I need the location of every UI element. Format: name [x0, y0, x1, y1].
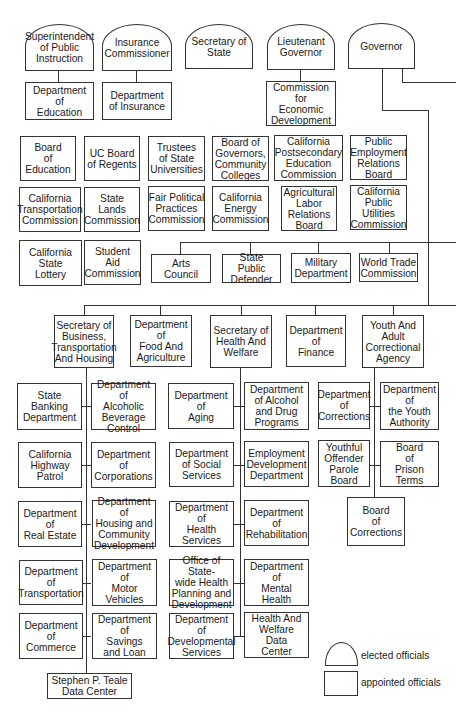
- connector: [180, 242, 181, 254]
- connector: [300, 70, 301, 81]
- dept-transportation: Department of Transportation: [19, 560, 83, 605]
- governor-connector: [402, 69, 403, 82]
- dept-rehabilitation: Department of Rehabilitation: [244, 500, 309, 546]
- agricultural-labor-relations-board: Agricultural Labor Relations Board: [281, 186, 337, 231]
- dept-alcohol-drug-programs: Department of Alcohol and Drug Programs: [244, 382, 309, 430]
- youthful-offender-parole-board: Youthful Offender Parole Board: [318, 440, 370, 487]
- dept-mental-health: Department of Mental Health: [244, 559, 309, 606]
- public-employment-relations-board: Public Employment Relations Board: [350, 135, 407, 180]
- dept-health-services: Department of Health Services: [169, 501, 234, 547]
- dept-savings-and-loan: Department of Savings and Loan: [92, 613, 157, 659]
- board-prison-terms: Board of Prison Terms: [380, 441, 439, 487]
- world-trade-commission: World Trade Commission: [359, 253, 418, 282]
- board-education: Board of Education: [20, 136, 76, 181]
- dept-insurance: Department of Insurance: [102, 82, 172, 120]
- california-state-lottery: California State Lottery: [19, 240, 82, 286]
- california-energy-commission: California Energy Commission: [212, 186, 269, 231]
- governor-trunk: [382, 69, 383, 110]
- trustees-state-universities: Trustees of State Universities: [148, 136, 205, 181]
- board-governors-community-colleges: Board of Governors, Community Colleges: [212, 136, 269, 181]
- governor-connector: [402, 82, 456, 83]
- elected-lieutenant-governor: Lieutenant Governor: [267, 24, 335, 70]
- board-corrections: Board of Corrections: [347, 497, 405, 546]
- legend-elected-icon: [325, 642, 358, 666]
- connector: [393, 305, 394, 315]
- connector: [315, 305, 316, 315]
- connector: [81, 524, 91, 525]
- legend-elected-label: elected officials: [361, 650, 429, 661]
- connector: [84, 305, 85, 315]
- business-spine: [86, 368, 87, 677]
- dept-food-agriculture: Department of Food And Agriculture: [130, 315, 192, 367]
- health-spine: [240, 368, 241, 637]
- dept-motor-vehicles: Department of Motor Vehicles: [92, 559, 157, 606]
- health-welfare-data-center: Health And Welfare Data Center: [244, 612, 309, 658]
- connector: [81, 406, 91, 407]
- military-department: Military Department: [291, 253, 351, 283]
- agencies-branch: [84, 305, 456, 306]
- agency-business-transportation-housing: Secretary of Business, Transportation An…: [54, 315, 114, 368]
- elected-insurance-commissioner: Insurance Commissioner: [102, 24, 172, 71]
- dept-youth-authority: Department of the Youth Authority: [380, 382, 439, 430]
- office-statewide-health-planning: Office of State- wide Health Planning an…: [169, 559, 234, 606]
- connector: [369, 406, 380, 407]
- state-public-defender: State Public Defender: [222, 254, 281, 283]
- dept-corrections: Department of Corrections: [318, 382, 370, 429]
- state-lands-commission: State Lands Commission: [84, 187, 140, 232]
- uc-board-of-regents: UC Board of Regents: [84, 136, 140, 181]
- governor-trunk: [382, 110, 429, 111]
- elected-secretary-of-state: Secretary of State: [185, 24, 253, 69]
- connector: [369, 465, 380, 466]
- dept-housing-community-development: Department of Housing and Community Deve…: [92, 500, 156, 547]
- dept-finance: Department of Finance: [286, 315, 346, 367]
- legend-appointed-label: appointed officials: [361, 677, 441, 688]
- connector: [136, 71, 137, 82]
- connector: [241, 305, 242, 315]
- agency-health-welfare: Secretary of Health And Welfare: [210, 315, 272, 368]
- dept-real-estate: Department of Real Estate: [18, 501, 82, 547]
- california-highway-patrol: California Highway Patrol: [18, 442, 82, 488]
- california-public-utilities-commission: California Public Utilities Commission: [350, 185, 407, 230]
- dept-alcoholic-beverage-control: Department of Alcoholic Beverage Control: [91, 383, 156, 430]
- connector: [81, 465, 91, 466]
- elected-governor: Governor: [348, 23, 415, 69]
- california-transportation-commission: California Transportation Commission: [19, 187, 81, 232]
- arts-council: Arts Council: [151, 254, 211, 283]
- dept-developmental-services: Department of Developmental Services: [169, 613, 234, 659]
- state-banking-department: State Banking Department: [17, 383, 82, 430]
- dept-social-services: Department of Social Services: [169, 442, 234, 487]
- elected-superintendent: Superintendent of Public Instruction: [25, 24, 94, 71]
- student-aid-commission: Student Aid Commission: [84, 240, 141, 285]
- dept-aging: Department of Aging: [168, 383, 234, 429]
- connector: [58, 71, 59, 82]
- youth-spine: [374, 368, 375, 497]
- california-postsecondary-education-commission: California Postsecondary Education Commi…: [274, 135, 343, 181]
- dept-education: Department of Education: [25, 82, 94, 120]
- commission-economic-development: Commission for Economic Development: [266, 81, 336, 126]
- dept-commerce: Department of Commerce: [19, 613, 83, 659]
- employment-development-department: Employment Development Department: [244, 441, 309, 487]
- legend-appointed-icon: [324, 671, 358, 696]
- agency-youth-adult-correctional: Youth And Adult Correctional Agency: [362, 315, 424, 368]
- connector: [160, 305, 161, 315]
- dept-corporations: Department of Corporations: [91, 442, 156, 488]
- stephen-p-teale-data-center: Stephen P. Teale Data Center: [47, 673, 132, 699]
- governor-trunk: [428, 110, 429, 306]
- fair-political-practices-commission: Fair Political Practices Commission: [148, 186, 205, 231]
